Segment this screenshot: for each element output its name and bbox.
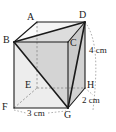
vertex-label-D: D	[79, 10, 86, 20]
dimension-label-depth: 2 cm	[82, 96, 100, 105]
vertex-label-A: A	[27, 12, 34, 22]
dim-guide-width-left	[14, 110, 26, 113]
dimension-label-height: 4 cm	[89, 46, 107, 55]
solid-drawing	[0, 0, 116, 132]
vertex-label-C: C	[70, 38, 77, 48]
vertex-label-E: E	[25, 80, 31, 90]
vertex-label-F: F	[2, 102, 8, 112]
geometry-figure: A B C D E F G H 4 cm 2 cm 3 cm	[0, 0, 116, 132]
vertex-label-G: G	[64, 110, 71, 120]
vertex-label-H: H	[87, 80, 94, 90]
vertex-label-B: B	[3, 35, 10, 45]
dimension-label-width: 3 cm	[27, 109, 45, 118]
